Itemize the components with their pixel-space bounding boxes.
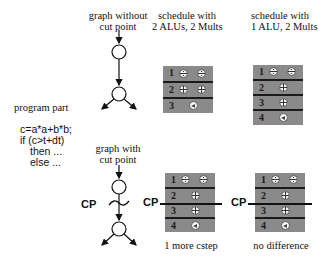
cut-point-label-schedule-2alu: CP xyxy=(143,196,158,208)
compare-op-icon xyxy=(189,101,198,110)
add-op-icon xyxy=(197,85,206,94)
cstep-number: 2 xyxy=(171,190,176,201)
cstep-row: 3 xyxy=(253,96,303,109)
cstep-row: 1 xyxy=(165,173,215,187)
cstep-row: 2 xyxy=(255,189,305,202)
cstep-row: 1 xyxy=(163,66,213,81)
multiply-op-icon xyxy=(287,67,296,76)
code-line: else ... xyxy=(20,157,72,168)
cstep-number: 2 xyxy=(259,82,264,93)
cstep-row: 1 xyxy=(253,65,303,79)
add-op-icon xyxy=(179,85,188,94)
cut-point-label-schedule-1alu: CP xyxy=(231,196,246,208)
cstep-number: 2 xyxy=(169,84,174,95)
cut-point-line-schedule-1alu xyxy=(248,203,312,205)
schedule-1alu-without-cp: 1 2 3 4 xyxy=(253,65,303,125)
header-line: schedule with xyxy=(150,10,232,21)
header-line: schedule with xyxy=(247,10,329,21)
cstep-row: 4 xyxy=(255,219,305,232)
cstep-number: 3 xyxy=(261,205,266,216)
graph-with-cut-point xyxy=(90,165,150,250)
header-line: cut point xyxy=(72,154,164,165)
cstep-row: 2 xyxy=(163,83,213,97)
multiply-op-icon xyxy=(289,175,298,184)
add-op-icon xyxy=(281,206,290,215)
add-op-icon xyxy=(191,206,200,215)
cstep-row: 2 xyxy=(165,189,215,202)
header-graph-with-cut-point: graph with cut point xyxy=(72,143,164,165)
cstep-number: 1 xyxy=(171,174,176,185)
program-code: c=a*a+b*b; if (c>t+dt) then ... else ... xyxy=(20,124,72,168)
cstep-row: 4 xyxy=(253,111,303,125)
cstep-number: 4 xyxy=(259,112,264,123)
multiply-op-icon xyxy=(179,69,188,78)
compare-op-icon xyxy=(281,221,290,230)
compare-op-icon xyxy=(279,113,288,122)
compare-op-icon xyxy=(191,221,200,230)
schedule-2alu-without-cp: 1 2 3 xyxy=(163,66,213,113)
cstep-number: 3 xyxy=(171,205,176,216)
multiply-op-icon xyxy=(269,67,278,76)
cstep-row: 3 xyxy=(163,99,213,113)
cstep-number: 3 xyxy=(169,100,174,111)
cut-point-label-graph: CP xyxy=(81,198,96,210)
multiply-op-icon xyxy=(197,69,206,78)
cstep-number: 1 xyxy=(259,66,264,77)
header-schedule-1-alu: schedule with 1 ALU, 2 Mults xyxy=(247,10,329,32)
cstep-number: 4 xyxy=(171,220,176,231)
multiply-op-icon xyxy=(199,175,208,184)
cstep-number: 3 xyxy=(259,97,264,108)
cstep-row: 3 xyxy=(165,204,215,217)
caption-no-difference: no difference xyxy=(240,240,322,251)
cstep-row: 4 xyxy=(165,219,215,232)
header-line: 1 ALU, 2 Mults xyxy=(247,21,329,32)
add-op-icon xyxy=(279,98,288,107)
header-line: 2 ALUs, 2 Mults xyxy=(150,21,232,32)
cstep-row: 1 xyxy=(255,173,305,187)
program-part-title: program part xyxy=(14,102,94,113)
header-schedule-2-alus: schedule with 2 ALUs, 2 Mults xyxy=(150,10,232,32)
cstep-number: 2 xyxy=(261,190,266,201)
graph-without-cut-point xyxy=(90,30,150,110)
cut-point-line-schedule-2alu xyxy=(160,203,222,205)
caption-1-more-cstep: 1 more cstep xyxy=(150,240,232,251)
multiply-op-icon xyxy=(271,175,280,184)
header-line: graph with xyxy=(72,143,164,154)
add-op-icon xyxy=(191,191,200,200)
multiply-op-icon xyxy=(181,175,190,184)
add-op-icon xyxy=(281,191,290,200)
cstep-number: 1 xyxy=(169,67,174,78)
add-op-icon xyxy=(279,83,288,92)
cstep-row: 2 xyxy=(253,81,303,94)
cstep-number: 4 xyxy=(261,220,266,231)
cstep-number: 1 xyxy=(261,174,266,185)
cstep-row: 3 xyxy=(255,204,305,217)
